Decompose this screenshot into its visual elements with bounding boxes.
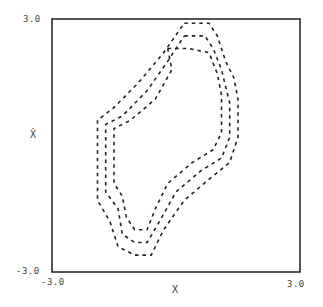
phase-plot bbox=[0, 0, 323, 307]
y-max-tick: 3.0 bbox=[23, 14, 41, 24]
x-axis-label: X bbox=[172, 284, 178, 295]
orbit-middle bbox=[106, 36, 230, 243]
y-axis-label: Ẋ bbox=[30, 129, 36, 140]
plot-frame bbox=[52, 19, 300, 272]
y-min-tick: -3.0 bbox=[16, 266, 40, 276]
orbit-curves bbox=[98, 23, 239, 255]
orbit-inner bbox=[114, 49, 222, 230]
x-min-tick: -3.0 bbox=[41, 277, 65, 287]
x-max-tick: 3.0 bbox=[287, 279, 305, 289]
